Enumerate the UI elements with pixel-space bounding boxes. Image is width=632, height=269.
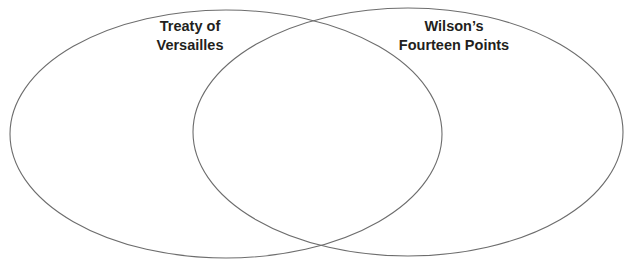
right-label-line-1: Wilson’s bbox=[390, 17, 518, 36]
left-label-line-2: Versailles bbox=[138, 36, 242, 55]
left-label-line-1: Treaty of bbox=[138, 17, 242, 36]
right-label-line-2: Fourteen Points bbox=[390, 36, 518, 55]
left-set-label: Treaty of Versailles bbox=[138, 17, 242, 55]
venn-diagram bbox=[0, 0, 632, 269]
right-set-label: Wilson’s Fourteen Points bbox=[390, 17, 518, 55]
